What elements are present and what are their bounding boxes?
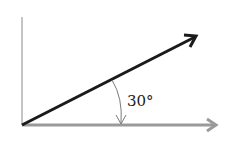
- angle-label: 30°: [127, 92, 154, 110]
- vector-angle-diagram: 30°: [0, 0, 234, 160]
- vector-arrow: [22, 37, 195, 125]
